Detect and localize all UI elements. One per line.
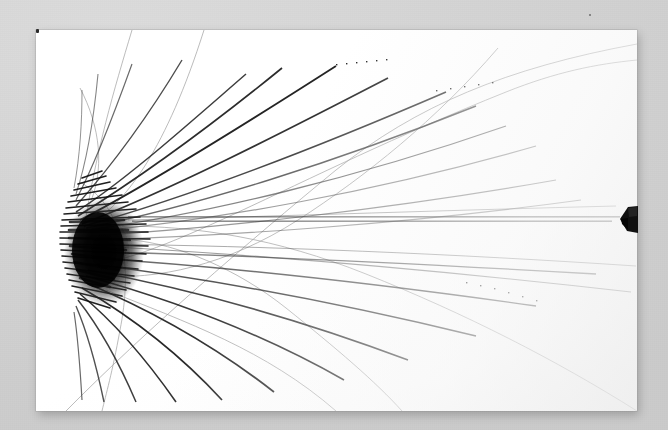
sheet-wrapper xyxy=(0,0,668,430)
corner-mark xyxy=(36,29,39,33)
photo-scene: Large-format printed fan / radial networ… xyxy=(0,0,668,430)
radial-network-diagram xyxy=(36,30,637,411)
hub-core xyxy=(72,212,124,288)
poster-sheet xyxy=(36,30,637,411)
radiating-label-lines xyxy=(74,60,636,402)
backdrop-speck xyxy=(589,14,591,16)
edge-object xyxy=(619,204,639,235)
horizontal-banner-text xyxy=(128,216,620,222)
